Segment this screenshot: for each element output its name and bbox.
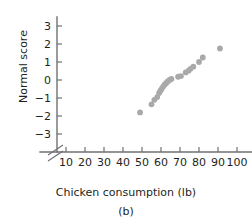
y-tick-label: −2 [35, 110, 51, 123]
x-tick-label: 40 [116, 156, 130, 169]
normal-probability-plot-figure: −3−2−10123 102030405060708090100 Normal … [0, 0, 252, 223]
x-axis: 102030405060708090100 [40, 147, 252, 169]
y-tick-label: −1 [35, 92, 51, 105]
x-axis-label: Chicken consumption (lb) [0, 186, 252, 199]
x-tick-label: 90 [211, 156, 225, 169]
y-axis: −3−2−10123 [35, 17, 62, 152]
data-point [169, 76, 175, 82]
y-tick-label: 3 [44, 20, 51, 33]
x-tick-label: 20 [78, 156, 92, 169]
y-tick-label: 2 [44, 38, 51, 51]
y-tick-label: 1 [44, 56, 51, 69]
data-point [178, 73, 184, 79]
panel-caption: (b) [0, 205, 252, 218]
x-tick-label: 100 [227, 156, 248, 169]
data-point [200, 55, 206, 61]
y-axis-label: Normal score [17, 22, 30, 112]
data-point [196, 59, 202, 65]
y-tick-label: 0 [44, 74, 51, 87]
x-tick-label: 10 [59, 156, 73, 169]
data-point [217, 46, 223, 52]
x-tick-label: 60 [154, 156, 168, 169]
x-tick-label: 30 [97, 156, 111, 169]
data-points [137, 46, 223, 116]
data-point [190, 64, 196, 70]
x-tick-label: 50 [135, 156, 149, 169]
data-point [137, 110, 143, 116]
y-tick-label: −3 [35, 128, 51, 141]
x-tick-label: 80 [192, 156, 206, 169]
x-tick-label: 70 [173, 156, 187, 169]
